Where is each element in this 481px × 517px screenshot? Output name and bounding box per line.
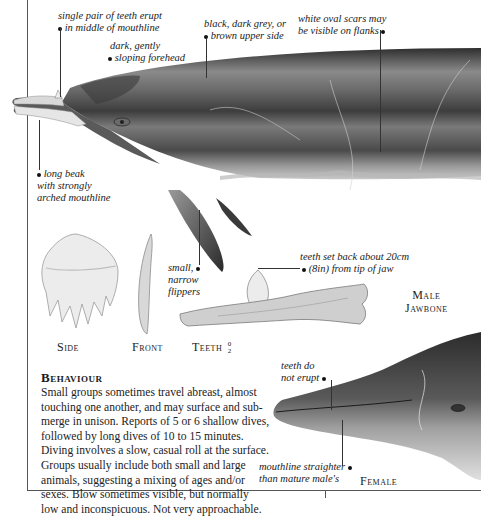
behaviour-section: Behaviour Small groups sometimes travel … [41, 370, 289, 517]
pointer-line [342, 420, 343, 466]
teeth-lower-count: 2 [228, 348, 232, 355]
label-teeth-erupt: single pair of teeth erupt in middle of … [58, 10, 162, 34]
pointer-line [206, 38, 207, 78]
label-jaw-note: teeth set back about 20cm (8in) from tip… [300, 251, 409, 275]
label-upper-side: black, dark grey, or brown upper side [204, 18, 286, 42]
female-head-illustration [272, 330, 481, 480]
pointer-dot [108, 57, 112, 61]
behaviour-heading: Behaviour [41, 370, 289, 386]
pointer-dot [37, 173, 41, 177]
pointer-dot [322, 377, 326, 381]
label-female: Female [360, 474, 397, 489]
pointer-line [258, 268, 300, 269]
pointer-dot [302, 268, 306, 272]
pointer-line [60, 27, 61, 97]
pointer-dot [381, 30, 385, 34]
label-male-jawbone: Male Jawbone [405, 289, 448, 315]
label-teeth-formula: Teeth 0 2 [192, 340, 232, 355]
pointer-line [380, 30, 381, 152]
label-side: Side [57, 340, 79, 355]
label-beak: long beak with strongly arched mouthline [37, 168, 110, 204]
pointer-line [199, 210, 200, 265]
pointer-line [331, 380, 332, 410]
pointer-dot [348, 466, 352, 470]
label-forehead: dark, gently sloping forehead [108, 40, 185, 64]
behaviour-body: Small groups sometimes travel abreast, a… [41, 386, 289, 517]
frame-tick [325, 490, 326, 498]
label-front: Front [132, 340, 163, 355]
tooth-front-illustration [133, 232, 157, 336]
tooth-side-illustration [36, 232, 126, 332]
label-scars: white oval scars may be visible on flank… [298, 13, 386, 37]
pointer-line [39, 120, 40, 170]
